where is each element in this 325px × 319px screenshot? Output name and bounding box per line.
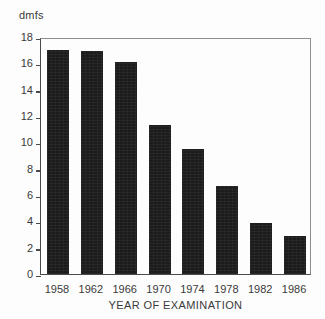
x-tick-label-1962: 1962 (74, 283, 108, 295)
y-tick-label: 6 (27, 189, 33, 201)
x-tick-label-1978: 1978 (209, 283, 243, 295)
y-axis-label: dmfs (19, 9, 44, 21)
y-tick-label: 4 (27, 215, 33, 227)
y-tick-label: 16 (21, 57, 33, 69)
bar-1970 (149, 125, 171, 274)
bar-1966 (115, 62, 137, 274)
y-tick-label: 12 (21, 110, 33, 122)
y-tick-mark (36, 276, 41, 278)
y-tick-label: 2 (27, 242, 33, 254)
bar-1986 (284, 236, 306, 274)
bar-chart-figure: dmfs 024681012141618 1958196219661970197… (0, 0, 325, 319)
bar-1958 (47, 50, 69, 274)
x-tick-label-1958: 1958 (40, 283, 74, 295)
bar-1978 (216, 186, 238, 274)
y-tick-label: 14 (21, 84, 33, 96)
plot-area: 024681012141618 (40, 38, 311, 275)
x-tick-label-1986: 1986 (277, 283, 311, 295)
x-tick-label-1966: 1966 (108, 283, 142, 295)
y-tick-label: 10 (21, 136, 33, 148)
x-axis-title: YEAR OF EXAMINATION (40, 299, 311, 311)
x-tick-label-1974: 1974 (176, 283, 210, 295)
bar-1974 (182, 149, 204, 274)
y-tick-label: 0 (27, 268, 33, 280)
bar-1962 (81, 51, 103, 274)
x-tick-label-1970: 1970 (142, 283, 176, 295)
y-tick-label: 18 (21, 31, 33, 43)
x-tick-label-1982: 1982 (243, 283, 277, 295)
bar-1982 (250, 223, 272, 274)
y-tick-label: 8 (27, 163, 33, 175)
bar-series (41, 39, 310, 274)
